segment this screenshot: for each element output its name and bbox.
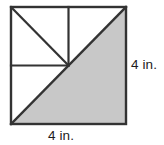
geometry-figure: 4 in. 4 in.	[0, 0, 164, 145]
dimension-label-right-side: 4 in.	[131, 58, 157, 72]
dimension-label-bottom-side: 4 in.	[48, 129, 74, 143]
upper-left-quadrant-diagonal	[11, 7, 69, 66]
geometry-diagram	[0, 0, 164, 145]
